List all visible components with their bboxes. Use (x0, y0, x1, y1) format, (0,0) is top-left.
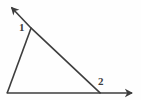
left-side-line (7, 28, 31, 93)
diagonal-transversal-line (30, 27, 100, 93)
angle-label-2: 2 (98, 76, 104, 87)
angle-label-1: 1 (19, 22, 25, 33)
geometry-figure: 1 2 (0, 0, 141, 100)
geometry-canvas (0, 0, 141, 100)
